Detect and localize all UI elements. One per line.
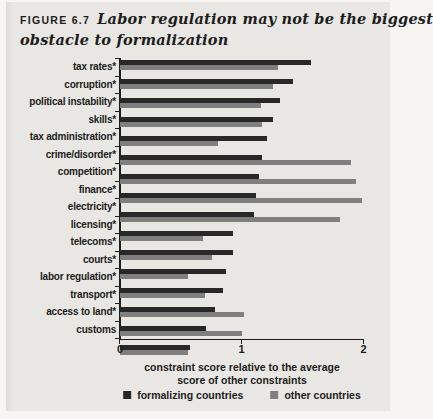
bar-other bbox=[120, 160, 351, 165]
category-label: skills* bbox=[6, 111, 116, 129]
legend: formalizing countries other countries bbox=[123, 389, 361, 401]
category-label: electricity* bbox=[6, 198, 116, 216]
category-axis: tax rates*corruption*political instabili… bbox=[6, 58, 116, 338]
chart-row bbox=[120, 117, 363, 135]
category-label: crime/disorder* bbox=[6, 146, 116, 164]
chart-row bbox=[120, 231, 363, 249]
bar-other bbox=[120, 331, 242, 336]
legend-item-formalizing: formalizing countries bbox=[123, 389, 243, 401]
chart-row bbox=[120, 288, 363, 306]
figure-title: FIGURE 6.7Labor regulation may not be th… bbox=[20, 9, 380, 49]
category-label: licensing* bbox=[6, 216, 116, 234]
bar-other bbox=[120, 255, 212, 260]
x-tick-label: 0 bbox=[105, 343, 135, 355]
other-swatch-icon bbox=[270, 391, 278, 399]
bar-other bbox=[120, 274, 188, 279]
chart-row bbox=[120, 307, 363, 325]
chart-row bbox=[120, 212, 363, 230]
chart-row bbox=[120, 193, 363, 211]
chart-row bbox=[120, 79, 363, 97]
category-label: transport* bbox=[6, 286, 116, 304]
x-tick-label: 1 bbox=[227, 343, 257, 355]
category-label: customs bbox=[6, 321, 116, 339]
chart-row bbox=[120, 155, 363, 173]
bar-other bbox=[120, 141, 218, 146]
category-label: access to land* bbox=[6, 303, 116, 321]
chart-row bbox=[120, 136, 363, 154]
category-label: tax rates* bbox=[6, 58, 116, 76]
plot-area bbox=[120, 58, 363, 338]
category-label: labor regulation* bbox=[6, 268, 116, 286]
figure-title-line2: obstacle to formalization bbox=[20, 30, 380, 49]
bar-other bbox=[120, 179, 356, 184]
chart-row bbox=[120, 60, 363, 78]
category-label: political instability* bbox=[6, 93, 116, 111]
category-label: courts* bbox=[6, 251, 116, 269]
figure-panel: FIGURE 6.7Labor regulation may not be th… bbox=[6, 2, 390, 411]
bar-other bbox=[120, 217, 340, 222]
category-label: finance* bbox=[6, 181, 116, 199]
figure-title-line1: Labor regulation may not be the biggest bbox=[97, 10, 433, 27]
category-label: competition* bbox=[6, 163, 116, 181]
bar-other bbox=[120, 84, 273, 89]
chart-row bbox=[120, 98, 363, 116]
bar-other bbox=[120, 198, 362, 203]
bar-other bbox=[120, 65, 278, 70]
bar-other bbox=[120, 122, 262, 127]
bar-other bbox=[120, 293, 205, 298]
category-label: corruption* bbox=[6, 76, 116, 94]
legend-label: formalizing countries bbox=[137, 389, 243, 401]
chart-row bbox=[120, 250, 363, 268]
x-tick-label: 2 bbox=[349, 343, 379, 355]
category-label: tax administration* bbox=[6, 128, 116, 146]
bar-other bbox=[120, 103, 261, 108]
formalizing-swatch-icon bbox=[123, 391, 131, 399]
legend-label: other countries bbox=[284, 389, 360, 401]
figure-number: FIGURE 6.7 bbox=[20, 14, 90, 26]
x-axis-title: constraint score relative to the average… bbox=[137, 361, 347, 387]
category-label: telecoms* bbox=[6, 233, 116, 251]
bar-other bbox=[120, 312, 244, 317]
legend-item-other: other countries bbox=[270, 389, 360, 401]
bar-other bbox=[120, 236, 203, 241]
chart-row bbox=[120, 269, 363, 287]
chart-row bbox=[120, 174, 363, 192]
